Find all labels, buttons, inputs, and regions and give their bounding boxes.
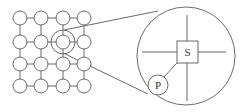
callout-line-bottom — [63, 53, 148, 94]
grid-node — [77, 11, 91, 25]
grid-node — [13, 57, 27, 71]
grid-node — [77, 57, 91, 71]
grid-node — [56, 79, 70, 93]
grid-node — [13, 11, 27, 25]
grid-node — [56, 57, 70, 71]
grid-node — [13, 35, 27, 49]
zoom-view: S P — [137, 7, 235, 105]
p-label: P — [155, 79, 161, 91]
grid-node — [34, 57, 48, 71]
grid-node — [34, 11, 48, 25]
grid-node — [77, 79, 91, 93]
grid-zoom-diagram: S P — [0, 0, 243, 112]
grid-node — [34, 79, 48, 93]
grid-node — [77, 35, 91, 49]
grid-node — [13, 79, 27, 93]
s-label: S — [184, 46, 190, 58]
grid-node — [56, 11, 70, 25]
grid-node — [34, 35, 48, 49]
grid-nodes — [13, 11, 91, 93]
grid-node-highlighted — [56, 35, 70, 49]
